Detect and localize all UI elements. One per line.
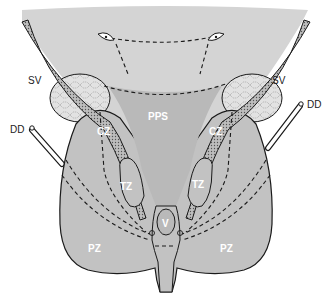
label-cz-right: CZ (209, 126, 222, 137)
label-tz-left: TZ (120, 181, 132, 192)
label-tz-right: TZ (192, 179, 204, 190)
label-pz-left: PZ (88, 243, 101, 254)
label-sv-right: SV (272, 75, 286, 86)
prostate-zonal-anatomy-diagram: SV SV DD DD PPS CZ CZ TZ TZ V PZ PZ (0, 0, 332, 308)
ductus-deferens-left (30, 126, 62, 164)
label-dd-left: DD (10, 124, 24, 135)
label-v: V (162, 218, 169, 229)
label-dd-right: DD (307, 99, 321, 110)
label-cz-left: CZ (97, 126, 110, 137)
label-pz-right: PZ (220, 243, 233, 254)
label-sv-left: SV (28, 75, 42, 86)
label-pps: PPS (148, 111, 168, 122)
